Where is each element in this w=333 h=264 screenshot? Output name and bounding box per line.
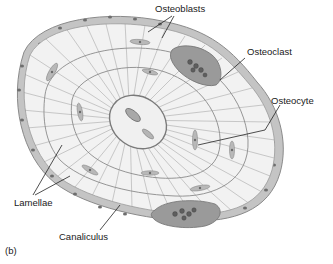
lamellae-label: Lamellae bbox=[14, 198, 53, 208]
osteon-diagram-figure: Osteoblasts Osteoclast Osteocyte Lamella… bbox=[0, 0, 333, 264]
canaliculus-label: Canaliculus bbox=[59, 232, 108, 242]
osteon-illustration bbox=[0, 0, 333, 264]
osteoclast-label: Osteoclast bbox=[247, 47, 292, 57]
panel-label: (b) bbox=[5, 246, 17, 256]
osteocyte-label: Osteocyte bbox=[271, 96, 314, 106]
osteoblasts-label: Osteoblasts bbox=[155, 4, 205, 14]
